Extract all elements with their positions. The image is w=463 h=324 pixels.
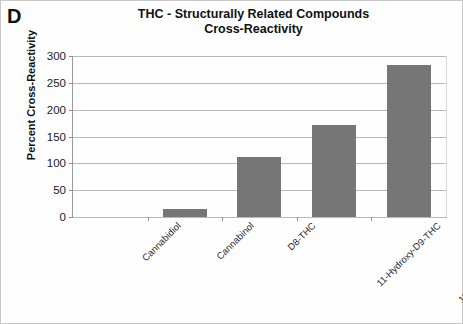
chart-title-line-1: THC - Structurally Related Compounds — [61, 7, 446, 22]
bar-series — [73, 56, 446, 217]
y-tick-label-100: 100 — [47, 157, 66, 169]
y-axis-title: Percent Cross-Reactivity — [25, 10, 37, 180]
x-axis-label: 11-nor-9-carboxy-D9 THC — [456, 220, 463, 305]
gridline-0 — [73, 217, 446, 218]
y-tick-label-50: 50 — [53, 184, 66, 196]
y-tick-label-300: 300 — [47, 50, 66, 62]
y-tick-label-200: 200 — [47, 104, 66, 116]
bar[interactable] — [387, 65, 431, 217]
x-axis-labels: CannabidiolCannabinolD8-THC11-Hydroxy-D9… — [72, 220, 447, 320]
x-axis-label: D8-THC — [285, 220, 317, 252]
bar-slot — [297, 56, 372, 217]
panel-letter: D — [7, 5, 21, 28]
bar-slot — [222, 56, 297, 217]
y-tick-label-150: 150 — [47, 131, 66, 143]
bar[interactable] — [237, 157, 281, 217]
y-tick-mark-0 — [69, 217, 73, 218]
y-tick-label-0: 0 — [60, 211, 66, 223]
figure-panel-d: D THC - Structurally Related Compounds C… — [0, 0, 463, 324]
bar-slot — [371, 56, 446, 217]
bar[interactable] — [312, 125, 356, 217]
bar-slot — [148, 56, 223, 217]
x-axis-label: 11-Hydroxy-D9-THC — [374, 220, 443, 289]
bar-slot — [73, 56, 148, 217]
chart-title: THC - Structurally Related Compounds Cro… — [61, 7, 446, 37]
x-axis-label: Cannabidiol — [140, 220, 183, 263]
plot-area: 300250200150100500 — [72, 56, 447, 218]
chart-title-line-2: Cross-Reactivity — [61, 22, 446, 37]
x-axis-label: Cannabinol — [214, 220, 256, 262]
y-tick-label-250: 250 — [47, 77, 66, 89]
bar[interactable] — [163, 209, 207, 217]
